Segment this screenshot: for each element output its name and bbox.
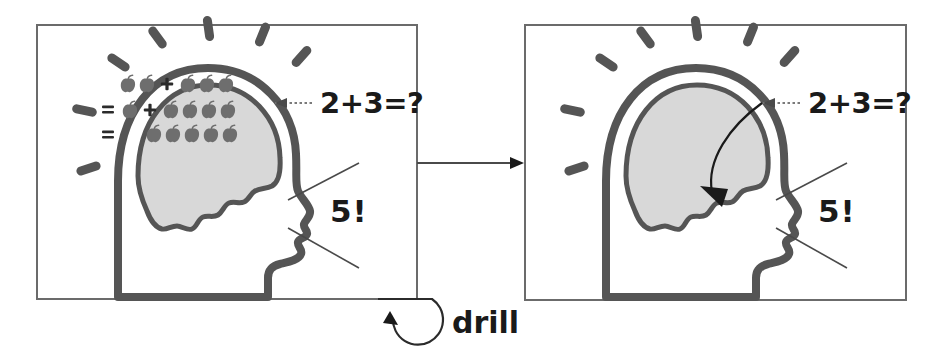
panel-after: 2+3=? 5! bbox=[525, 15, 911, 300]
output-label-left: 5! bbox=[330, 193, 368, 229]
input-label-right: 2+3=? bbox=[808, 86, 911, 120]
input-label-left: 2+3=? bbox=[320, 86, 423, 120]
panel-before: 2+3=? 5! bbox=[37, 15, 423, 299]
diagram-svg: 2+3=? 5! bbox=[0, 0, 943, 355]
drill-loop-arrow bbox=[378, 299, 443, 345]
drill-label: drill bbox=[452, 305, 519, 340]
panel-transition-arrow bbox=[417, 157, 524, 169]
output-label-right: 5! bbox=[818, 193, 856, 229]
figure-canvas: 2+3=? 5! bbox=[0, 0, 943, 355]
